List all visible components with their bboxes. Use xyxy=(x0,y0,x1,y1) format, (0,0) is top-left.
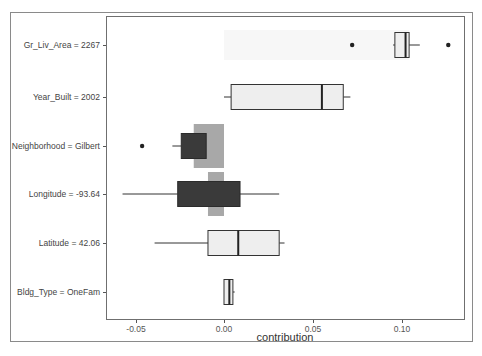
boxplot-area xyxy=(0,0,482,356)
outlier-point xyxy=(140,144,144,148)
box xyxy=(208,231,279,256)
contribution-bar xyxy=(224,30,409,60)
box xyxy=(181,134,206,159)
outlier-point xyxy=(350,43,354,47)
box xyxy=(231,85,343,110)
box xyxy=(178,182,240,207)
outlier-point xyxy=(446,43,450,47)
box xyxy=(395,33,409,58)
